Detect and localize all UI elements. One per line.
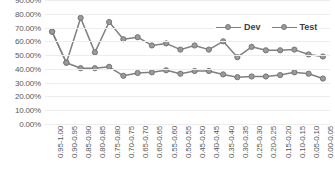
data-point-test[interactable]	[149, 43, 154, 48]
data-point-test[interactable]	[249, 44, 254, 49]
x-axis-tick-label: 0.30-0.35	[241, 126, 250, 158]
x-axis-tick-label: 0.55-0.60	[170, 126, 179, 158]
data-point-dev[interactable]	[235, 75, 240, 80]
chart-legend: Dev Test	[214, 21, 319, 33]
y-axis-tick-label: 80.00%	[15, 9, 41, 18]
y-axis-tick-label: 70.00%	[15, 23, 41, 32]
x-axis-tick-label: 0.60-0.65	[155, 126, 164, 158]
data-point-test[interactable]	[263, 48, 268, 53]
x-axis-tick-label: 0.45-0.50	[198, 126, 207, 158]
x-axis-tick-label: 0.05-0.10	[312, 126, 321, 158]
x-axis-tick-label: 0.80-0.85	[98, 126, 107, 158]
gridline	[45, 96, 330, 97]
y-axis-tick-label: 90.00%	[15, 0, 41, 5]
y-axis-tick-label: 50.00%	[15, 51, 41, 60]
data-point-test[interactable]	[192, 43, 197, 48]
gridline	[45, 124, 330, 125]
x-axis-tick-label: 0.10-0.15	[298, 126, 307, 158]
gridline	[45, 110, 330, 111]
x-axis-tick-label: 0.25-0.30	[255, 126, 264, 158]
y-axis-tick-label: 10.00%	[15, 106, 41, 115]
data-point-dev[interactable]	[263, 74, 268, 79]
data-point-test[interactable]	[278, 48, 283, 53]
x-axis-tick-label: 0.15-0.20	[284, 126, 293, 158]
x-axis-tick-label: 0.50-0.55	[184, 126, 193, 158]
data-point-test[interactable]	[206, 47, 211, 52]
data-point-dev[interactable]	[292, 70, 297, 75]
gridline	[45, 41, 330, 42]
data-point-dev[interactable]	[249, 74, 254, 79]
data-point-test[interactable]	[135, 35, 140, 40]
data-point-test[interactable]	[78, 15, 83, 20]
gridline	[45, 55, 330, 56]
y-axis: 90.00%80.00%70.00%60.00%50.00%40.00%30.0…	[0, 0, 44, 124]
x-axis-tick-label: 0.70-0.75	[127, 126, 136, 158]
y-axis-tick-label: 0.00%	[19, 120, 41, 129]
legend-marker-dev-icon	[216, 23, 241, 32]
data-point-dev[interactable]	[149, 70, 154, 75]
data-point-test[interactable]	[64, 60, 69, 65]
x-axis-tick-label: 0.95-1.00	[56, 126, 65, 158]
x-axis-tick-label: 0.20-0.25	[269, 126, 278, 158]
gridline	[45, 83, 330, 84]
data-point-dev[interactable]	[306, 71, 311, 76]
data-point-test[interactable]	[107, 19, 112, 24]
data-point-dev[interactable]	[320, 76, 325, 81]
legend-item-dev[interactable]: Dev	[216, 22, 261, 32]
data-point-dev[interactable]	[221, 72, 226, 77]
gridline	[45, 69, 330, 70]
data-point-test[interactable]	[178, 47, 183, 52]
legend-marker-test-icon	[272, 23, 297, 32]
data-point-test[interactable]	[292, 47, 297, 52]
y-axis-tick-label: 40.00%	[15, 64, 41, 73]
data-point-dev[interactable]	[178, 71, 183, 76]
x-axis-tick-label: 0.40-0.45	[212, 126, 221, 158]
plot-area	[45, 0, 330, 124]
gridline	[45, 14, 330, 15]
y-axis-tick-label: 30.00%	[15, 78, 41, 87]
x-axis-tick-label: 0.75-0.80	[113, 126, 122, 158]
y-axis-tick-label: 60.00%	[15, 37, 41, 46]
data-point-dev[interactable]	[278, 72, 283, 77]
x-axis-tick-label: 0.35-0.40	[227, 126, 236, 158]
x-axis-tick-label: 0.00-0.05	[326, 126, 335, 158]
gridline	[45, 0, 330, 1]
data-point-test[interactable]	[50, 29, 55, 34]
x-axis-tick-label: 0.85-0.90	[84, 126, 93, 158]
data-point-dev[interactable]	[121, 73, 126, 78]
legend-label-test: Test	[300, 22, 318, 32]
data-point-dev[interactable]	[135, 70, 140, 75]
series-canvas	[45, 0, 330, 124]
x-axis-tick-label: 0.65-0.70	[141, 126, 150, 158]
x-axis-tick-label: 0.90-0.95	[70, 126, 79, 158]
legend-label-dev: Dev	[244, 22, 261, 32]
legend-item-test[interactable]: Test	[272, 22, 318, 32]
y-axis-tick-label: 20.00%	[15, 92, 41, 101]
x-axis: 0.95-1.000.90-0.950.85-0.900.80-0.850.75…	[45, 126, 330, 181]
